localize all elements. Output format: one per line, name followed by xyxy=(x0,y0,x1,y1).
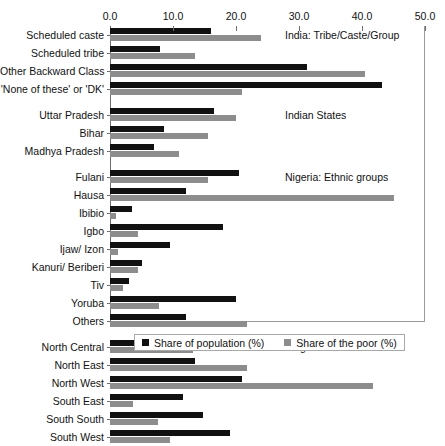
bar-share-of-the-poor xyxy=(110,437,170,443)
bar-share-of-the-poor xyxy=(110,267,138,273)
bar-group xyxy=(110,142,425,160)
category-label: Bihar xyxy=(0,124,104,142)
chart-row: North West xyxy=(0,374,445,392)
category-label: Others xyxy=(0,312,104,330)
bar-share-of-population xyxy=(110,412,203,418)
bar-group xyxy=(110,356,425,374)
section-annotation: Nigeria: Ethnic groups xyxy=(285,171,388,183)
bar-share-of-population xyxy=(110,64,307,70)
bar-group xyxy=(110,80,425,98)
bar-share-of-the-poor xyxy=(110,285,123,291)
chart-row: Ibibio xyxy=(0,204,445,222)
legend-swatch-population xyxy=(142,339,149,346)
x-axis-tick-30.0: 30.0 xyxy=(289,10,309,22)
chart-row: North East xyxy=(0,356,445,374)
x-axis-tickmark-40.0 xyxy=(362,26,363,31)
category-label: North Central xyxy=(0,338,104,356)
category-label: Uttar Pradesh xyxy=(0,106,104,124)
chart-row: Scheduled tribe xyxy=(0,44,445,62)
bar-share-of-population xyxy=(110,394,183,400)
category-label: South South xyxy=(0,410,104,428)
chart-row: Madhya Pradesh xyxy=(0,142,445,160)
bar-share-of-population xyxy=(110,126,164,132)
chart-row: South East xyxy=(0,392,445,410)
bar-share-of-the-poor xyxy=(110,115,236,121)
chart-row: Igbo xyxy=(0,222,445,240)
category-label: 'None of these' or 'DK' xyxy=(0,80,104,98)
bar-group xyxy=(110,222,425,240)
bar-group xyxy=(110,240,425,258)
chart-row: South West xyxy=(0,428,445,446)
bar-share-of-the-poor xyxy=(110,303,159,309)
bar-group xyxy=(110,258,425,276)
chart-row: Ijaw/ Izon xyxy=(0,240,445,258)
bar-group xyxy=(110,124,425,142)
bar-share-of-the-poor xyxy=(110,35,261,41)
bar-group xyxy=(110,410,425,428)
bar-share-of-the-poor xyxy=(110,133,208,139)
bar-share-of-population xyxy=(110,46,160,52)
x-axis-tickmark-10.0 xyxy=(173,26,174,31)
x-axis-tick-50.0: 50.0 xyxy=(415,10,435,22)
category-label: South West xyxy=(0,428,104,446)
bar-share-of-population xyxy=(110,206,132,212)
bar-share-of-population xyxy=(110,296,236,302)
bar-share-of-the-poor xyxy=(110,383,373,389)
bar-share-of-population xyxy=(110,224,223,230)
bar-group xyxy=(110,428,425,446)
category-label: North West xyxy=(0,374,104,392)
bar-share-of-population xyxy=(110,278,129,284)
bar-share-of-the-poor xyxy=(110,151,179,157)
category-label: Ibibio xyxy=(0,204,104,222)
legend-item-share-of-population: Share of population (%) xyxy=(142,337,264,349)
bar-group xyxy=(110,276,425,294)
bar-group xyxy=(110,374,425,392)
bar-share-of-population xyxy=(110,144,154,150)
x-axis-tick-labels: 0.010.020.030.040.050.0 xyxy=(0,0,445,26)
bar-share-of-population xyxy=(110,188,186,194)
bar-share-of-population xyxy=(110,358,195,364)
bar-share-of-the-poor xyxy=(110,177,208,183)
chart-row: 'None of these' or 'DK' xyxy=(0,80,445,98)
bar-share-of-the-poor xyxy=(110,71,365,77)
bar-share-of-the-poor xyxy=(110,213,116,219)
legend-item-share-of-poor: Share of the poor (%) xyxy=(284,337,396,349)
category-label: Other Backward Class xyxy=(0,62,104,80)
bar-group xyxy=(110,312,425,330)
category-label: North East xyxy=(0,356,104,374)
bar-group xyxy=(110,294,425,312)
category-label: South East xyxy=(0,392,104,410)
x-axis-tickmark-50.0 xyxy=(425,26,426,31)
chart-row: Yoruba xyxy=(0,294,445,312)
bar-group xyxy=(110,44,425,62)
bar-share-of-the-poor xyxy=(110,53,195,59)
chart-row: Tiv xyxy=(0,276,445,294)
x-axis-tickmark-30.0 xyxy=(299,26,300,31)
bar-share-of-the-poor xyxy=(110,89,242,95)
bar-group xyxy=(110,204,425,222)
chart-legend: Share of population (%) Share of the poo… xyxy=(134,334,405,351)
x-axis-tick-20.0: 20.0 xyxy=(226,10,246,22)
bar-group xyxy=(110,62,425,80)
category-label: Fulani xyxy=(0,168,104,186)
bar-share-of-the-poor xyxy=(110,365,247,371)
chart-row: Bihar xyxy=(0,124,445,142)
x-axis-tick-10.0: 10.0 xyxy=(163,10,183,22)
bar-share-of-the-poor xyxy=(110,321,247,327)
chart-row: South South xyxy=(0,410,445,428)
bar-share-of-population xyxy=(110,28,211,34)
category-label: Kanuri/ Beriberi xyxy=(0,258,104,276)
bar-share-of-population xyxy=(110,108,214,114)
bar-share-of-population xyxy=(110,314,186,320)
bar-share-of-population xyxy=(110,430,230,436)
category-label: Scheduled tribe xyxy=(0,44,104,62)
section-annotation: India: Tribe/Caste/Group xyxy=(285,29,399,41)
bar-group xyxy=(110,106,425,124)
section-annotation: Indian States xyxy=(285,109,346,121)
category-label: Ijaw/ Izon xyxy=(0,240,104,258)
category-label: Tiv xyxy=(0,276,104,294)
x-axis-tick-40.0: 40.0 xyxy=(352,10,372,22)
category-label: Yoruba xyxy=(0,294,104,312)
bar-share-of-population xyxy=(110,170,239,176)
bar-share-of-population xyxy=(110,82,382,88)
